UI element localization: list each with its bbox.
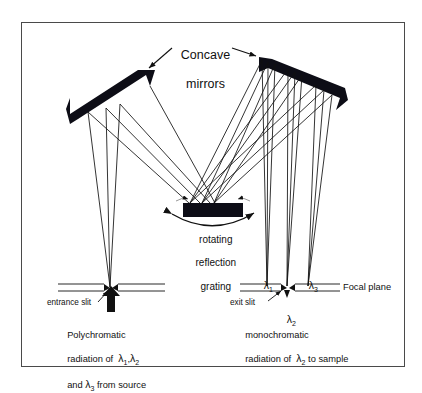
grating-label-line-2: reflection: [195, 257, 236, 268]
focal-plane-label: Focal plane: [343, 282, 391, 293]
grating-label-line-1: rotating: [199, 234, 232, 245]
left-concave-mirror: [66, 70, 155, 124]
title-line-1: Concave: [181, 48, 230, 62]
page-title: Concave mirrors: [163, 33, 241, 92]
title-line-2: mirrors: [186, 77, 225, 91]
lambda1-subscript: 1: [269, 286, 273, 293]
right-caption-line-1: monochromatic: [245, 330, 309, 340]
beam-entrance-to-left-mirror: [88, 104, 120, 287]
lambda1-label: λ1: [258, 267, 273, 295]
right-concave-mirror: [259, 57, 348, 110]
exit-slit-label: exit slit: [230, 298, 255, 308]
lambda2-exit-arrow: [284, 290, 290, 298]
grating-label: rotating reflection grating: [168, 222, 258, 293]
left-caption: Polychromatic radiation of λ1,λ2 and λ3 …: [62, 319, 146, 393]
entrance-slit-label: entrance slit: [47, 298, 91, 308]
lambda3-label: λ3: [303, 267, 318, 295]
entrance-slit-pointer: [98, 291, 108, 302]
right-caption-line-2: radiation of λ2 to sample: [245, 354, 348, 364]
right-caption: monochromatic radiation of λ2 to sample: [240, 319, 348, 367]
left-caption-line-2: radiation of λ1,λ2: [67, 354, 139, 364]
left-caption-line-1: Polychromatic: [67, 330, 125, 340]
beam-right-mirror-to-focal-plane: [262, 60, 332, 286]
left-caption-line-3: and λ3 from source: [67, 380, 146, 390]
lambda3-subscript: 3: [314, 286, 318, 293]
grating-label-line-3: grating: [200, 281, 231, 292]
